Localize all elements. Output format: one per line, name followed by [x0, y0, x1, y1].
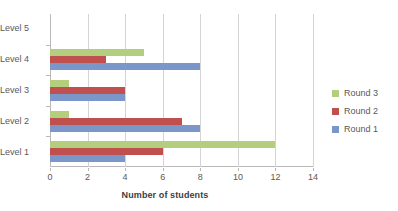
x-tick-label-8: 8: [198, 172, 203, 182]
bar-track-level-3-round-2: [50, 87, 313, 94]
x-tick-label-0: 0: [47, 172, 52, 182]
legend-item-round-3[interactable]: Round 3: [332, 84, 378, 102]
y-axis-label-level-1: Level 1: [0, 147, 44, 157]
bar-chart: Level 5 Level 4 Level 3 Level 2 Level 1: [0, 0, 398, 211]
x-tick-label-6: 6: [160, 172, 165, 182]
bar-level-1-round-1: [50, 155, 125, 162]
bar-track-level-2-round-3: [50, 111, 313, 118]
x-tick-mark-6: [163, 168, 164, 171]
legend-swatch-icon-round-3: [332, 90, 339, 97]
bar-track-level-5-round-1: [50, 33, 313, 40]
y-axis-label-level-3: Level 3: [0, 85, 44, 95]
bar-level-2-round-2: [50, 118, 182, 125]
bar-level-4-round-3: [50, 49, 144, 56]
bar-level-3-round-3: [50, 80, 69, 87]
x-tick-mark-12: [275, 168, 276, 171]
bar-group-level-4: [50, 45, 313, 76]
bar-level-3-round-2: [50, 87, 125, 94]
bar-level-2-round-1: [50, 125, 200, 132]
y-axis-label-level-5: Level 5: [0, 23, 44, 33]
legend-label-round-3: Round 3: [344, 88, 378, 98]
legend-swatch-icon-round-1: [332, 126, 339, 133]
bar-group-level-5: [50, 14, 313, 45]
x-tick-label-12: 12: [270, 172, 280, 182]
bar-track-level-3-round-3: [50, 80, 313, 87]
bar-track-level-4-round-2: [50, 56, 313, 63]
y-axis-label-level-4: Level 4: [0, 54, 44, 64]
bar-level-2-round-3: [50, 111, 69, 118]
x-axis-ticks: 0 2 4 6 8 10 12 14: [50, 168, 313, 184]
legend-label-round-2: Round 2: [344, 106, 378, 116]
bar-level-4-round-1: [50, 63, 200, 70]
x-tick-label-10: 10: [233, 172, 243, 182]
bar-track-level-2-round-1: [50, 125, 313, 132]
gridline-14: [313, 14, 314, 167]
legend-item-round-2[interactable]: Round 2: [332, 102, 378, 120]
bar-track-level-4-round-1: [50, 63, 313, 70]
bar-track-level-1-round-3: [50, 141, 313, 148]
bar-track-level-5-round-3: [50, 19, 313, 26]
x-tick-label-4: 4: [123, 172, 128, 182]
x-tick-label-14: 14: [308, 172, 318, 182]
bar-track-level-1-round-1: [50, 155, 313, 162]
bar-group-level-3: [50, 75, 313, 106]
bar-track-level-3-round-1: [50, 94, 313, 101]
bar-level-1-round-3: [50, 141, 275, 148]
chart-legend: Round 3 Round 2 Round 1: [332, 84, 378, 138]
x-tick-mark-8: [200, 168, 201, 171]
bar-level-3-round-1: [50, 94, 125, 101]
bar-track-level-5-round-2: [50, 26, 313, 33]
x-tick-label-2: 2: [85, 172, 90, 182]
plot-area: [50, 14, 313, 167]
bar-track-level-1-round-2: [50, 148, 313, 155]
bar-level-4-round-2: [50, 56, 106, 63]
bar-track-level-4-round-3: [50, 49, 313, 56]
legend-swatch-icon-round-2: [332, 108, 339, 115]
x-tick-mark-14: [313, 168, 314, 171]
y-axis-label-level-2: Level 2: [0, 116, 44, 126]
x-tick-mark-4: [125, 168, 126, 171]
bar-group-level-2: [50, 106, 313, 137]
bar-level-1-round-2: [50, 148, 163, 155]
x-axis-title: Number of students: [0, 190, 330, 200]
bar-group-level-1: [50, 136, 313, 167]
legend-label-round-1: Round 1: [344, 124, 378, 134]
x-tick-mark-10: [238, 168, 239, 171]
bar-track-level-2-round-2: [50, 118, 313, 125]
x-tick-mark-0: [50, 168, 51, 171]
legend-item-round-1[interactable]: Round 1: [332, 120, 378, 138]
x-tick-mark-2: [88, 168, 89, 171]
